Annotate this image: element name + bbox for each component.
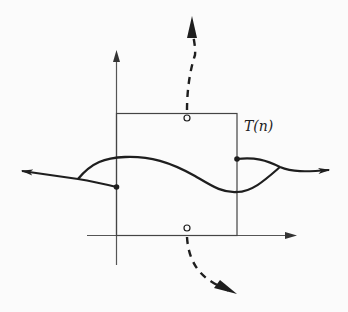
main-curve <box>78 157 237 192</box>
diagram-canvas: T(n) <box>0 0 348 312</box>
top-arrow-icon <box>187 16 197 38</box>
right-exit-arrow <box>237 158 329 171</box>
left-entry-dot <box>114 184 120 190</box>
box-label: T(n) <box>244 118 273 134</box>
diagram-svg: T(n) <box>0 0 348 312</box>
left-exit-arrow <box>22 171 117 187</box>
right-lower-branch <box>237 167 280 192</box>
region-box <box>117 114 238 236</box>
bottom-open-circle <box>184 225 190 231</box>
y-axis-arrow-icon <box>113 50 120 62</box>
x-axis-arrow-icon <box>285 232 297 239</box>
bottom-arrow-icon <box>214 280 237 294</box>
bottom-dashed-path <box>187 237 232 292</box>
top-open-circle <box>184 115 190 121</box>
right-entry-dot <box>234 156 240 162</box>
